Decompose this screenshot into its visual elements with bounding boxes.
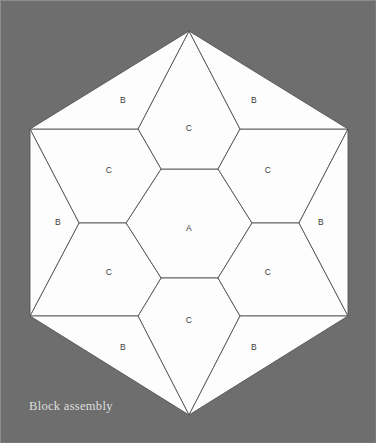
figure-caption: Block assembly bbox=[29, 399, 113, 414]
piece-label-bottom-left-b: B bbox=[120, 342, 126, 352]
piece-label-top-c: C bbox=[186, 123, 192, 133]
piece-label-upper-right-c: C bbox=[265, 165, 271, 175]
piece-label-bottom-right-b: B bbox=[251, 342, 257, 352]
assembly-diagram: ACCCCCCBBBBBB bbox=[1, 1, 376, 443]
piece-label-top-left-b: B bbox=[120, 95, 126, 105]
piece-label-lower-right-c: C bbox=[265, 267, 271, 277]
piece-label-upper-left-c: C bbox=[106, 165, 112, 175]
block-assembly-figure: ACCCCCCBBBBBB Block assembly bbox=[0, 0, 376, 443]
piece-label-left-b: B bbox=[55, 217, 61, 227]
piece-label-center-a: A bbox=[186, 223, 192, 233]
piece-label-top-right-b: B bbox=[251, 95, 257, 105]
piece-label-right-b: B bbox=[318, 217, 324, 227]
piece-label-bottom-c: C bbox=[186, 315, 192, 325]
piece-label-lower-left-c: C bbox=[106, 267, 112, 277]
